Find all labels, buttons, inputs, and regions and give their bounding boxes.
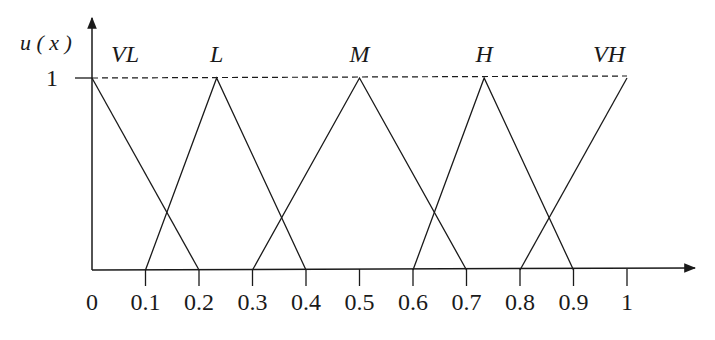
x-tick-label: 0.4 (291, 289, 321, 315)
x-tick-label: 0.3 (238, 289, 268, 315)
x-tick-label: 0 (86, 289, 98, 315)
y-axis-label: u ( x ) (20, 30, 72, 55)
set-label-l: L (209, 41, 223, 67)
series-h (413, 78, 574, 270)
membership-function-chart: 00.10.20.30.40.50.60.70.80.91 u ( x ) 1 … (0, 0, 715, 340)
x-tick-label: 0.2 (184, 289, 214, 315)
x-tick-label: 0.5 (345, 289, 375, 315)
x-tick-label: 1 (621, 289, 633, 315)
series-vl (92, 78, 199, 270)
set-label-m: M (349, 41, 372, 67)
set-labels: VLLMHVH (111, 41, 627, 67)
series-m (253, 78, 467, 270)
set-label-vh: VH (593, 41, 627, 67)
x-tick-label: 0.6 (398, 289, 428, 315)
x-tick-label: 0.7 (452, 289, 482, 315)
x-axis (92, 268, 695, 270)
x-tick-label: 0.8 (505, 289, 535, 315)
membership-series (92, 78, 627, 270)
set-label-vl: VL (111, 41, 139, 67)
set-label-h: H (474, 41, 494, 67)
x-tick-label: 0.1 (131, 289, 161, 315)
y-tick-label-1: 1 (46, 65, 58, 91)
series-vh (520, 78, 627, 270)
x-ticks: 00.10.20.30.40.50.60.70.80.91 (86, 269, 633, 315)
series-l (146, 78, 307, 270)
x-tick-label: 0.9 (559, 289, 589, 315)
